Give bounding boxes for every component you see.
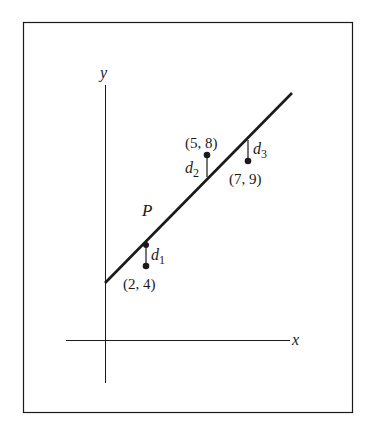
line-label-p: P [141, 201, 152, 220]
point-label: (2, 4) [123, 276, 156, 293]
point-marker [204, 152, 211, 159]
point-label: (7, 9) [229, 171, 262, 188]
residual-label: d2 [185, 159, 199, 180]
point-marker [143, 263, 150, 270]
data-point-3: d3 (7, 9) [229, 140, 267, 188]
residual-label: d3 [253, 140, 267, 161]
y-axis-label: y [98, 64, 108, 82]
x-axis-label: x [291, 331, 299, 348]
figure-frame [24, 23, 353, 413]
line-point-marker [143, 242, 149, 248]
residual-label: d1 [151, 246, 165, 267]
point-label: (5, 8) [185, 135, 218, 152]
point-marker [245, 158, 252, 165]
regression-diagram: y x P d1 (2, 4) d2 (5, 8) d3 (7, 9) [0, 0, 372, 444]
regression-line [105, 93, 292, 283]
data-point-1: d1 (2, 4) [123, 242, 165, 293]
